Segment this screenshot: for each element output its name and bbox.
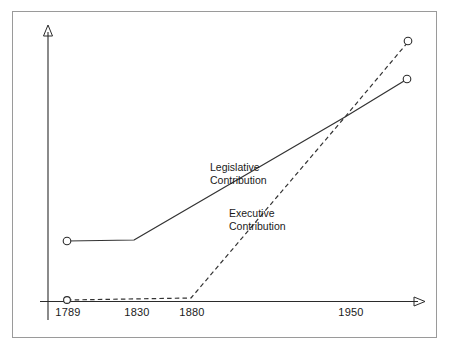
executive-annotation-line-2: Contribution [229,220,286,233]
legislative-annotation-line-1: Legislative [210,161,267,174]
executive-contribution-marker-start [64,297,71,304]
x-tick-label-1880: 1880 [179,306,204,319]
legislative-annotation-line-2: Contribution [210,174,267,187]
x-tick-label-1830: 1830 [124,306,149,319]
x-tick-label-1789: 1789 [55,306,80,319]
legislative-contribution-annotation: Legislative Contribution [210,161,267,186]
legislative-contribution-marker-end [403,75,411,83]
chart-page: 1789 1830 1880 1950 Legislative Contribu… [0,0,450,352]
executive-annotation-line-1: Executive [229,207,286,220]
executive-contribution-annotation: Executive Contribution [229,207,286,232]
executive-contribution-marker-end [404,37,412,45]
legislative-contribution-marker-start [63,237,71,245]
x-tick-label-1950: 1950 [338,306,363,319]
